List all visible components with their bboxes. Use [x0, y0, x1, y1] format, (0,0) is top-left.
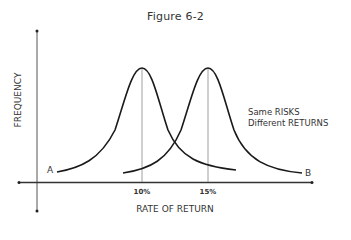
curve-a-label: A [47, 165, 53, 175]
annotation-line-1: Same RISKS [248, 107, 328, 118]
y-axis-top-dot [36, 30, 39, 33]
annotation-line-2: Different RETURNS [248, 118, 328, 129]
x-axis-right-dot [311, 181, 314, 184]
curve-a [57, 68, 236, 172]
x-axis-label: RATE OF RETURN [136, 204, 214, 214]
y-axis-bottom-dot [36, 210, 39, 213]
x-axis-left-dot [18, 181, 21, 184]
tick-label-15: 15% [200, 188, 217, 196]
curve-b-label: B [305, 168, 311, 178]
annotation: Same RISKS Different RETURNS [248, 107, 328, 129]
tick-label-10: 10% [134, 188, 151, 196]
y-axis-label: FREQUENCY [13, 73, 23, 128]
